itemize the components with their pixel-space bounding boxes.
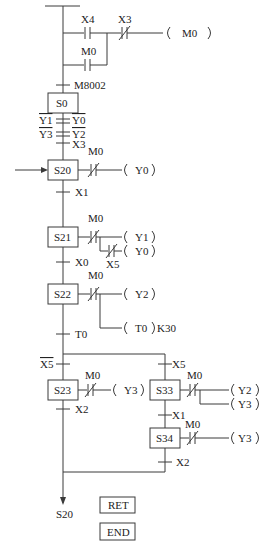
svg-text:T0: T0 [135,322,148,334]
svg-text:Y3: Y3 [124,384,138,396]
s23-action: M0 Y3 [78,369,144,397]
step-s0-label: S0 [56,97,68,109]
svg-text:M0: M0 [88,145,104,157]
svg-text:Y0: Y0 [135,245,149,257]
svg-text:Y3: Y3 [238,432,252,444]
start-rung: X4 X3 M0 M0 M8002 [45,6,211,160]
svg-text:S34: S34 [156,432,174,444]
svg-text:X2: X2 [176,456,189,468]
svg-text:S23: S23 [54,384,72,396]
svg-text:M0: M0 [85,369,101,381]
svg-text:X1: X1 [75,186,88,198]
m8002-label: M8002 [74,79,106,91]
svg-text:K30: K30 [157,322,176,334]
svg-text:X2: X2 [75,403,88,415]
s0-transition-conditions: Y1 Y0 Y3 Y2 X3 [39,114,86,150]
svg-text:X5: X5 [106,258,120,270]
svg-text:T0: T0 [75,328,88,340]
m0-hold-label: M0 [81,45,97,57]
svg-text:M0: M0 [88,212,104,224]
sfc-diagram: X4 X3 M0 M0 M8002 S0 Y1 Y0 Y3 Y2 X3 [0,0,268,555]
svg-text:X1: X1 [172,409,185,421]
svg-text:M0: M0 [185,418,201,430]
s22-action: M0 Y2 T0 K30 [78,269,176,334]
svg-text:Y2: Y2 [238,384,251,396]
svg-text:Y0: Y0 [72,114,86,126]
jump-target-label: S20 [56,508,74,520]
m0-coil-label: M0 [182,27,198,39]
x4-label: X4 [81,13,95,25]
svg-text:S20: S20 [54,164,72,176]
svg-text:X5: X5 [40,358,54,370]
s33-action: M0 Y2 Y3 [180,369,259,410]
svg-text:Y0: Y0 [135,164,149,176]
svg-text:M0: M0 [187,369,203,381]
svg-text:Y3: Y3 [238,398,252,410]
svg-text:S33: S33 [156,384,174,396]
svg-text:Y3: Y3 [39,128,53,140]
jump-arrow-icon [60,497,66,505]
svg-text:RET: RET [108,499,129,511]
svg-text:END: END [107,526,130,538]
s21-action: M0 Y1 Y0 X5 [78,212,155,270]
svg-text:Y2: Y2 [135,288,148,300]
svg-text:X3: X3 [72,138,86,150]
svg-text:Y1: Y1 [39,114,52,126]
svg-text:M0: M0 [88,269,104,281]
s34-action: M0 Y3 [180,418,259,445]
svg-text:X5: X5 [172,358,186,370]
m0-coil-icon [168,27,171,39]
svg-text:Y1: Y1 [135,231,148,243]
s20-action: M0 Y0 [78,145,155,177]
svg-text:S22: S22 [54,288,71,300]
svg-text:X0: X0 [75,256,89,268]
svg-text:S21: S21 [54,231,71,243]
x3-label: X3 [118,13,132,25]
